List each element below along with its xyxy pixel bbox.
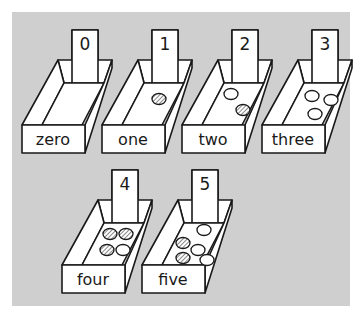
hatched-counter bbox=[236, 105, 250, 116]
box-word-label: zero bbox=[36, 130, 70, 149]
box-four: 44four bbox=[62, 170, 152, 293]
empty-counter bbox=[308, 109, 322, 120]
svg-text:4: 4 bbox=[120, 174, 131, 194]
hatched-counter bbox=[152, 94, 166, 105]
empty-counter bbox=[116, 245, 130, 256]
svg-text:0: 0 bbox=[80, 34, 91, 54]
empty-counter bbox=[197, 225, 211, 236]
svg-text:1: 1 bbox=[160, 34, 171, 54]
box-one: 11one bbox=[102, 30, 192, 153]
empty-counter bbox=[200, 255, 214, 266]
box-word-label: two bbox=[198, 130, 227, 149]
box-two: 22two bbox=[182, 30, 272, 153]
hatched-counter bbox=[176, 238, 190, 249]
box-three: 33three bbox=[262, 30, 352, 153]
box-word-label: four bbox=[77, 270, 110, 289]
empty-counter bbox=[224, 89, 238, 100]
box-word-label: five bbox=[158, 270, 187, 289]
box-five: 55five bbox=[142, 170, 232, 293]
svg-text:3: 3 bbox=[320, 34, 331, 54]
svg-text:5: 5 bbox=[200, 174, 211, 194]
hatched-counter bbox=[119, 229, 133, 240]
hatched-counter bbox=[103, 229, 117, 240]
svg-text:2: 2 bbox=[240, 34, 251, 54]
box-zero: 00zero bbox=[22, 30, 112, 153]
box-word-label: one bbox=[118, 130, 148, 149]
box-word-label: three bbox=[272, 130, 314, 149]
hatched-counter bbox=[100, 245, 114, 256]
empty-counter bbox=[324, 95, 338, 106]
hatched-counter bbox=[176, 253, 190, 264]
counting-boxes-illustration: 00zero 11one 22two 33three 44four 55five bbox=[0, 0, 360, 312]
empty-counter bbox=[191, 245, 205, 256]
empty-counter bbox=[305, 91, 319, 102]
